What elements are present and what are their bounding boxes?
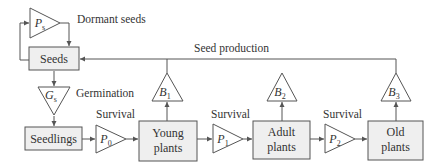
- old-plants-box: Old plants: [368, 121, 423, 160]
- young-plants-label-line2: plants: [154, 141, 183, 155]
- adult-plants-box: Adult plants: [253, 121, 310, 159]
- old-plants-label-line2: plants: [381, 140, 410, 154]
- survival-label-0: Survival: [96, 108, 135, 120]
- young-plants-box: Young plants: [139, 121, 197, 161]
- seed-production-label: Seed production: [194, 42, 269, 55]
- adult-plants-label-line2: plants: [267, 140, 296, 154]
- dormant-to-seeds-connector: [60, 23, 69, 46]
- survival-label-2: Survival: [323, 108, 362, 120]
- p1-triangle: P1: [213, 124, 243, 153]
- old-plants-label-line1: Old: [387, 125, 405, 139]
- gs-triangle: Gs: [38, 87, 70, 115]
- ps-triangle: Ps: [30, 8, 60, 38]
- seedlings-label: Seedlings: [30, 132, 77, 146]
- dormant-seeds-label: Dormant seeds: [77, 13, 146, 25]
- adult-plants-label-line1: Adult: [268, 125, 296, 139]
- seeds-box: Seeds: [29, 47, 79, 70]
- b2-triangle: B2: [267, 73, 297, 101]
- germination-label: Germination: [76, 87, 134, 99]
- p2-triangle: P2: [325, 124, 355, 153]
- seedlings-box: Seedlings: [25, 127, 82, 150]
- young-plants-label-line1: Young: [152, 126, 183, 140]
- b3-triangle: B3: [381, 73, 411, 101]
- seeds-label: Seeds: [40, 52, 68, 66]
- seed-production-connector: [80, 59, 396, 73]
- seeds-to-dormant-connector: [20, 23, 29, 60]
- p0-triangle: P0: [96, 125, 126, 153]
- survival-label-1: Survival: [211, 108, 250, 120]
- b1-triangle: B1: [152, 73, 183, 101]
- life-cycle-diagram: Seeds Seedlings Young plants Adult plant…: [0, 0, 442, 164]
